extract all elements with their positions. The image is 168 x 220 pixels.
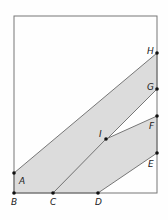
point-i: [104, 137, 108, 141]
point-a: [12, 171, 16, 175]
point-h: [155, 51, 159, 55]
point-c: [51, 191, 55, 195]
label-d: D: [95, 197, 102, 207]
point-f: [155, 114, 159, 118]
label-b: B: [11, 197, 17, 207]
point-g: [155, 87, 159, 91]
point-e: [155, 151, 159, 155]
label-f: F: [149, 121, 155, 131]
label-a: A: [18, 176, 25, 186]
label-c: C: [50, 197, 57, 207]
label-h: H: [147, 46, 154, 56]
point-b: [12, 191, 16, 195]
label-e: E: [148, 159, 154, 169]
point-d: [96, 191, 100, 195]
geometry-diagram: ABCDEFGHI: [0, 0, 168, 220]
label-g: G: [147, 82, 154, 92]
label-i: I: [99, 129, 102, 139]
